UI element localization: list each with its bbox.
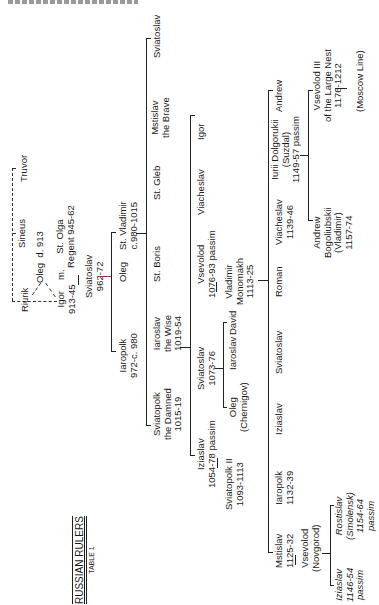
sviatopolk-ii: Sviatopolk II 1093-1113 xyxy=(224,458,245,510)
iaropolk-1132: Iaropolk 1132-39 xyxy=(274,471,295,505)
connector xyxy=(322,553,330,554)
igor-gen5: Igor xyxy=(196,124,207,140)
vsevolod-iii: Vsevolod III of the Large Nest 1176-1212 xyxy=(312,49,344,122)
connector xyxy=(295,555,296,565)
oleg-chernigov: Oleg (Chernigov) xyxy=(228,382,249,432)
connector xyxy=(136,233,146,234)
vsevolod-1076: Vsevolod 1076-93 passim xyxy=(196,230,217,298)
tick xyxy=(111,351,116,352)
gen3-bracket xyxy=(111,232,112,351)
connector xyxy=(300,155,308,156)
iaroslav-gen6: Iaroslav xyxy=(228,337,239,370)
andrew-gen7: Andrew xyxy=(274,80,285,112)
connector xyxy=(180,347,190,348)
connector xyxy=(215,368,223,369)
connector xyxy=(217,458,218,468)
marriage-symbol: m. xyxy=(56,269,67,280)
oleg-regent: Oleg d. 913 xyxy=(35,231,46,283)
vsevolod-novgorod: Vsevolod (Novgorod) xyxy=(300,524,321,572)
title-main: RUSSIAN RULERS xyxy=(72,516,85,604)
founders-dashed-line xyxy=(12,168,13,301)
david: David xyxy=(228,311,239,335)
riurik-oleg-dash xyxy=(32,283,41,295)
viacheslav-1139: Viacheslav 1139-46 xyxy=(274,199,295,245)
riurik: Riurik xyxy=(20,288,31,312)
connector xyxy=(258,280,268,281)
vladimir-monomakh: Vladimir Monomakh 1113-25 xyxy=(224,258,256,305)
moscow-line: (Moscow Line) xyxy=(355,50,366,112)
genealogy-chart: RUSSIAN RULERS TABLE 1 Riurik Sineus Tru… xyxy=(0,0,379,605)
gen5-bracket xyxy=(190,115,191,455)
igor: Igor 913-45 xyxy=(56,284,77,314)
rostislav-smolensk: Rostislav (Smolensk) 1154-64 passim xyxy=(334,492,376,540)
chart-title: RUSSIAN RULERS TABLE 1 xyxy=(72,516,95,604)
sviatoslav-1073: Sviatoslav 1073-76 xyxy=(196,347,217,390)
iurii-dolgorukii: Iurii Dolgorukii (Suzdal) 1149-57 passim xyxy=(270,116,302,183)
connector xyxy=(216,282,217,292)
gen8-bracket xyxy=(308,90,309,220)
roman: Roman xyxy=(274,266,285,297)
st-boris: St. Boris xyxy=(152,246,163,282)
st-olga: St. Olga Regent 945-62 xyxy=(55,205,76,268)
andrew-bogoliubskii: Andrew Bogoliubskii (Vladimir) 1157-74 xyxy=(312,207,354,258)
title-sub: TABLE 1 xyxy=(86,516,95,604)
iaroslav-wise: Iaroslav the Wise 1019-54 xyxy=(152,315,184,352)
iziaslav-1146: Iziaslav 1146-54 passim xyxy=(334,568,366,602)
iziaslav-1054: Iziaslav 1054-78 passim xyxy=(196,420,217,488)
sviatoslav-gen4: Sviatoslav xyxy=(152,15,163,58)
iziaslav-gen7: Iziaslav xyxy=(274,403,285,435)
dash-tick xyxy=(12,168,16,169)
running-header-fragment xyxy=(8,0,138,4)
oleg-gen3: Oleg xyxy=(118,262,129,282)
mstislav-brave: Mstislav the Brave xyxy=(150,97,171,138)
gen4-bracket xyxy=(146,38,147,425)
sviatopolk-damned: Sviatopolk the Damned 1015-19 xyxy=(152,388,184,440)
sviatoslav-gen7: Sviatoslav xyxy=(274,331,285,374)
tick xyxy=(111,232,116,233)
connector xyxy=(335,88,347,89)
sineus: Sineus xyxy=(17,219,28,248)
truvor: Truvor xyxy=(19,155,30,182)
gen9-bracket xyxy=(330,505,331,585)
viacheslav-gen5: Viacheslav xyxy=(196,169,207,215)
st-vladimir: St. Vladimir c.980-1015 xyxy=(118,201,139,250)
mstislav-1125: Mstislav 1125-32 xyxy=(274,534,295,568)
connector xyxy=(78,275,79,285)
tick xyxy=(190,115,195,116)
st-gleb: St. Gleb xyxy=(152,166,163,200)
iaropolk-972: Iaropolk 972-c. 980 xyxy=(118,333,139,378)
gen6-bracket xyxy=(223,322,224,407)
